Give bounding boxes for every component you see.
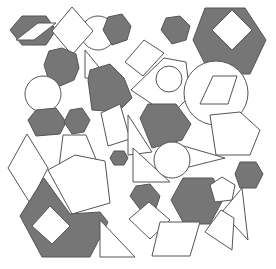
- circle-white-left: [25, 76, 61, 112]
- circle-white-center-small: [156, 66, 182, 92]
- circle-white-center-bottom: [154, 142, 190, 178]
- hexagon-dark-small-center: [110, 151, 128, 165]
- geometric-shapes-canvas: [0, 0, 276, 269]
